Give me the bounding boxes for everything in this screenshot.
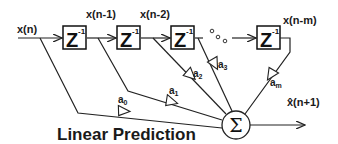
svg-text:Z: Z	[260, 29, 272, 51]
linear-prediction-diagram: x(n) Z -1 Z -1 Z -1 Z -1 x(n-1) x(n-2) x…	[0, 0, 338, 144]
gain-triangle-a0	[118, 106, 131, 117]
tap-wire-a0	[40, 38, 222, 128]
tap-label-n-2: x(n-2)	[140, 8, 170, 20]
delay-box-m: Z -1	[257, 26, 280, 51]
svg-text:Z: Z	[120, 29, 132, 51]
output-label: x̂(n+1)	[287, 96, 320, 108]
sigma-icon: Σ	[229, 114, 242, 136]
coef-a0: a0	[118, 94, 128, 106]
coef-a2: a2	[193, 68, 203, 80]
tap-label-n-m: x(n-m)	[283, 14, 317, 26]
coef-a3: a3	[218, 59, 228, 71]
tap-wire-a3	[198, 38, 232, 111]
tap-label-n-1: x(n-1)	[86, 8, 116, 20]
delay-box-3: Z -1	[171, 26, 194, 51]
svg-text:Z: Z	[174, 29, 186, 51]
delay-box-2: Z -1	[117, 26, 140, 51]
delay-box-1: Z -1	[63, 26, 86, 51]
summing-junction: Σ	[222, 111, 250, 139]
svg-text:-1: -1	[272, 27, 280, 36]
svg-text:-1: -1	[132, 27, 140, 36]
coef-am: am	[270, 77, 282, 89]
svg-text:-1: -1	[186, 27, 194, 36]
svg-text:-1: -1	[78, 27, 86, 36]
svg-text:Z: Z	[66, 29, 78, 51]
coef-a1: a1	[169, 85, 179, 97]
diagram-title: Linear Prediction	[57, 125, 196, 144]
input-label: x(n)	[17, 23, 38, 35]
ellipsis-dots	[210, 29, 227, 43]
